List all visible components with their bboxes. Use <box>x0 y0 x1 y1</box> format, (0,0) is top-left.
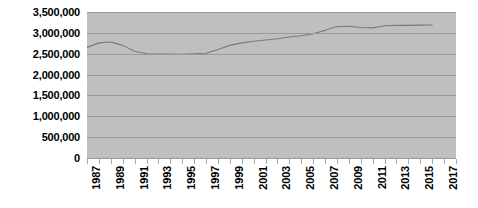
x-axis-tick <box>432 159 433 164</box>
x-axis-tick <box>111 159 112 164</box>
x-axis-tick <box>99 159 100 164</box>
x-axis-tick <box>266 159 267 164</box>
y-tick-label: 2,000,000 <box>33 69 80 80</box>
x-tick-label: 2005 <box>305 166 316 190</box>
y-axis: 3,500,0003,000,0002,500,0002,000,0001,50… <box>0 0 84 208</box>
y-tick-label: 1,000,000 <box>33 111 80 122</box>
x-tick-label: 2001 <box>258 166 269 190</box>
x-tick-label: 1987 <box>91 166 102 190</box>
y-tick-label: 1,500,000 <box>33 90 80 101</box>
x-axis-tick <box>444 159 445 164</box>
x-axis-tick <box>194 159 195 164</box>
x-axis-tick <box>361 159 362 164</box>
series-1-polyline <box>87 25 432 54</box>
x-tick-label: 2009 <box>353 166 364 190</box>
y-tick-label: 3,500,000 <box>33 7 80 18</box>
x-tick-label: 2015 <box>424 166 435 190</box>
x-axis-tick <box>325 159 326 164</box>
x-axis-tick <box>218 159 219 164</box>
x-axis-tick <box>135 159 136 164</box>
x-axis-tick <box>456 159 457 164</box>
x-tick-label: 1997 <box>210 166 221 190</box>
x-axis-tick <box>206 159 207 164</box>
gridline <box>87 137 456 138</box>
x-tick-label: 1989 <box>115 166 126 190</box>
x-tick-label: 2003 <box>281 166 292 190</box>
y-tick-label: 500,000 <box>42 132 80 143</box>
x-axis-tick <box>301 159 302 164</box>
gridline <box>87 54 456 55</box>
plot-area <box>87 12 456 158</box>
x-axis-tick <box>408 159 409 164</box>
x-tick-label: 1993 <box>162 166 173 190</box>
x-axis-tick <box>230 159 231 164</box>
x-axis-tick <box>277 159 278 164</box>
x-axis: 1987198919911993199519971999200120032005… <box>87 166 456 208</box>
x-axis-ticks <box>87 159 456 165</box>
x-axis-tick <box>313 159 314 164</box>
x-axis-tick <box>87 159 88 164</box>
x-axis-tick <box>158 159 159 164</box>
x-tick-label: 2013 <box>400 166 411 190</box>
x-tick-label: 2017 <box>448 166 459 190</box>
gridline <box>87 12 456 13</box>
gridline <box>87 95 456 96</box>
y-tick-label: 2,500,000 <box>33 48 80 59</box>
x-axis-tick <box>254 159 255 164</box>
line-chart: 3,500,0003,000,0002,500,0002,000,0001,50… <box>0 0 478 208</box>
gridline <box>87 33 456 34</box>
y-tick-label: 3,000,000 <box>33 27 80 38</box>
x-tick-label: 1995 <box>186 166 197 190</box>
x-axis-tick <box>147 159 148 164</box>
x-axis-tick <box>373 159 374 164</box>
x-axis-tick <box>396 159 397 164</box>
x-axis-tick <box>123 159 124 164</box>
x-tick-label: 2007 <box>329 166 340 190</box>
x-axis-tick <box>170 159 171 164</box>
x-tick-label: 2011 <box>377 166 388 189</box>
gridline <box>87 116 456 117</box>
gridline <box>87 75 456 76</box>
x-axis-tick <box>385 159 386 164</box>
x-axis-tick <box>420 159 421 164</box>
x-axis-tick <box>289 159 290 164</box>
y-tick-label: 0 <box>74 153 80 164</box>
x-axis-tick <box>337 159 338 164</box>
x-axis-tick <box>349 159 350 164</box>
x-tick-label: 1991 <box>139 166 150 190</box>
x-axis-tick <box>182 159 183 164</box>
x-axis-tick <box>242 159 243 164</box>
x-tick-label: 1999 <box>234 166 245 190</box>
